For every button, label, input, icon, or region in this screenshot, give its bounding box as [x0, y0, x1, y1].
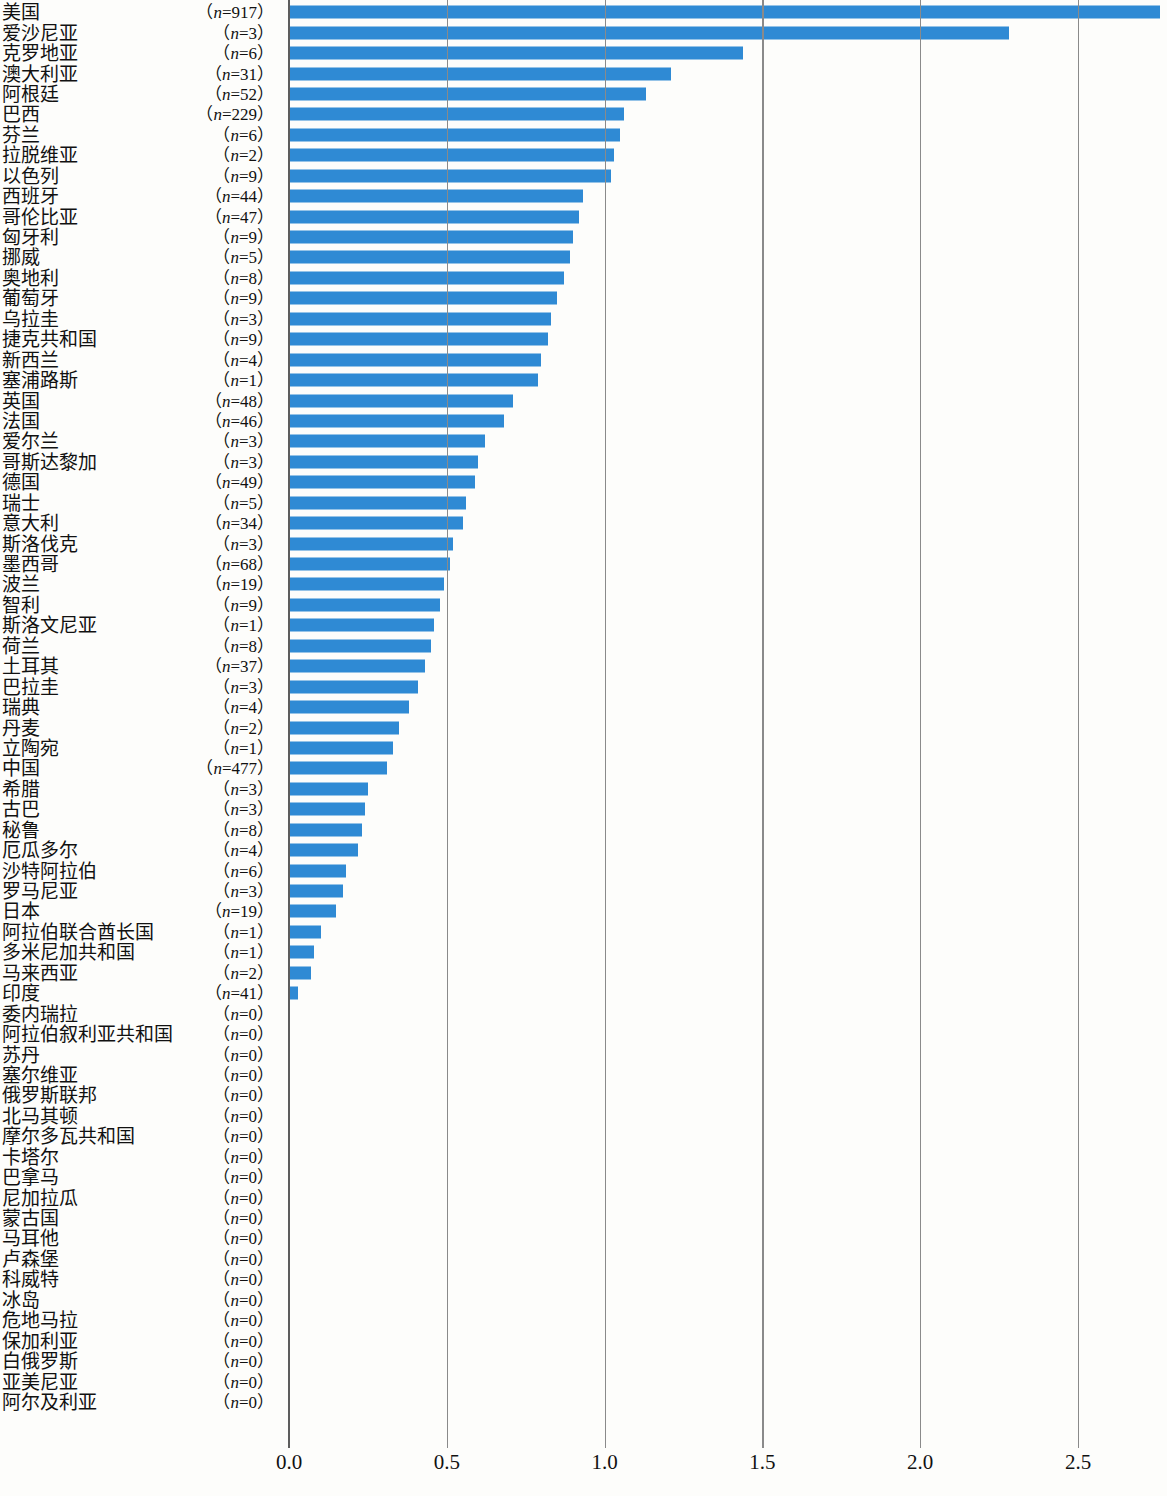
bar	[289, 312, 551, 325]
bar	[289, 741, 393, 754]
bar-fill	[289, 721, 399, 734]
sample-size-label: （n=19）	[205, 576, 274, 593]
bar	[289, 701, 409, 714]
sample-size-label: （n=4）	[213, 351, 274, 368]
bar	[289, 517, 463, 530]
chart-row: 塞浦路斯（n=1）	[0, 370, 1167, 390]
chart-row: 冰岛（n=0）	[0, 1290, 1167, 1310]
category-label: 法国	[2, 411, 40, 430]
bar-fill	[289, 455, 478, 468]
sample-size-label: （n=9）	[213, 290, 274, 307]
bar-fill	[289, 251, 570, 264]
chart-row: 挪威（n=5）	[0, 247, 1167, 267]
chart-rows: 美国（n=917）爱沙尼亚（n=3）克罗地亚（n=6）澳大利亚（n=31）阿根廷…	[0, 2, 1167, 1412]
category-label: 危地马拉	[2, 1311, 78, 1330]
sample-size-label: （n=0）	[213, 1087, 274, 1104]
chart-row: 美国（n=917）	[0, 2, 1167, 22]
bar	[289, 803, 365, 816]
category-label: 厄瓜多尔	[2, 841, 78, 860]
category-label: 波兰	[2, 575, 40, 594]
bar-fill	[289, 414, 504, 427]
bar	[289, 67, 671, 80]
sample-size-label: （n=6）	[213, 862, 274, 879]
bar-fill	[289, 741, 393, 754]
chart-row: 斯洛伐克（n=3）	[0, 533, 1167, 553]
sample-size-label: （n=0）	[213, 1169, 274, 1186]
category-label: 澳大利亚	[2, 64, 78, 83]
sample-size-label: （n=3）	[213, 801, 274, 818]
category-label: 挪威	[2, 248, 40, 267]
category-label: 俄罗斯联邦	[2, 1086, 97, 1105]
bar-fill	[289, 987, 298, 1000]
sample-size-label: （n=0）	[213, 1005, 274, 1022]
bar	[289, 639, 431, 652]
chart-row: 卡塔尔（n=0）	[0, 1147, 1167, 1167]
sample-size-label: （n=1）	[213, 372, 274, 389]
bar	[289, 578, 444, 591]
chart-row: 澳大利亚（n=31）	[0, 63, 1167, 83]
category-label: 荷兰	[2, 636, 40, 655]
sample-size-label: （n=5）	[213, 494, 274, 511]
bar-fill	[289, 517, 463, 530]
category-label: 意大利	[2, 514, 59, 533]
bar	[289, 598, 440, 611]
category-label: 塞尔维亚	[2, 1065, 78, 1084]
sample-size-label: （n=0）	[213, 1373, 274, 1390]
category-label: 印度	[2, 984, 40, 1003]
sample-size-label: （n=4）	[213, 842, 274, 859]
bar	[289, 823, 362, 836]
sample-size-label: （n=31）	[205, 65, 274, 82]
category-label: 爱尔兰	[2, 432, 59, 451]
sample-size-label: （n=0）	[213, 1230, 274, 1247]
chart-row: 英国（n=48）	[0, 390, 1167, 410]
x-tick-label: 2.5	[1065, 1452, 1091, 1473]
bar-fill	[289, 374, 538, 387]
bar-fill	[289, 680, 418, 693]
category-label: 捷克共和国	[2, 330, 97, 349]
chart-row: 阿根廷（n=52）	[0, 84, 1167, 104]
sample-size-label: （n=52）	[205, 85, 274, 102]
category-label: 保加利亚	[2, 1331, 78, 1350]
category-label: 阿根廷	[2, 84, 59, 103]
category-label: 多米尼加共和国	[2, 943, 135, 962]
bar	[289, 251, 570, 264]
chart-row: 哥伦比亚（n=47）	[0, 206, 1167, 226]
sample-size-label: （n=8）	[213, 821, 274, 838]
chart-row: 阿拉伯叙利亚共和国（n=0）	[0, 1024, 1167, 1044]
bar-fill	[289, 149, 614, 162]
bar	[289, 108, 624, 121]
chart-row: 西班牙（n=44）	[0, 186, 1167, 206]
category-label: 瑞典	[2, 698, 40, 717]
chart-row: 马耳他（n=0）	[0, 1228, 1167, 1248]
bar	[289, 190, 583, 203]
category-label: 卢森堡	[2, 1249, 59, 1268]
sample-size-label: （n=3）	[213, 453, 274, 470]
chart-row: 亚美尼亚（n=0）	[0, 1371, 1167, 1391]
category-label: 摩尔多瓦共和国	[2, 1127, 135, 1146]
chart-row: 瑞士（n=5）	[0, 493, 1167, 513]
sample-size-label: （n=3）	[213, 24, 274, 41]
bar	[289, 844, 358, 857]
sample-size-label: （n=0）	[213, 1107, 274, 1124]
chart-row: 阿尔及利亚（n=0）	[0, 1392, 1167, 1412]
chart-row: 立陶宛（n=1）	[0, 738, 1167, 758]
sample-size-label: （n=8）	[213, 637, 274, 654]
chart-row: 中国（n=477）	[0, 758, 1167, 778]
category-label: 委内瑞拉	[2, 1004, 78, 1023]
category-label: 克罗地亚	[2, 44, 78, 63]
bar	[289, 762, 387, 775]
category-label: 苏丹	[2, 1045, 40, 1064]
chart-row: 法国（n=46）	[0, 411, 1167, 431]
chart-row: 荷兰（n=8）	[0, 636, 1167, 656]
category-label: 古巴	[2, 800, 40, 819]
sample-size-label: （n=0）	[213, 1210, 274, 1227]
sample-size-label: （n=0）	[213, 1128, 274, 1145]
category-label: 葡萄牙	[2, 289, 59, 308]
y-axis-line	[288, 0, 290, 1448]
x-tick-label: 1.5	[749, 1452, 775, 1473]
category-label: 墨西哥	[2, 555, 59, 574]
bar-fill	[289, 598, 440, 611]
category-label: 匈牙利	[2, 228, 59, 247]
gridline	[447, 0, 448, 1448]
bar-fill	[289, 619, 434, 632]
